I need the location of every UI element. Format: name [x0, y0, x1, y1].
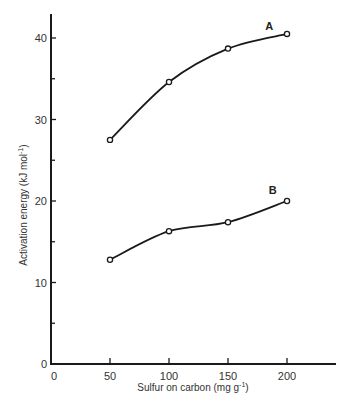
x-axis-ticks: 050100150200 [51, 358, 296, 382]
x-tick-label: 0 [51, 370, 57, 382]
series-curves [110, 34, 287, 260]
data-point-marker [225, 46, 230, 51]
data-point-marker [225, 220, 230, 225]
x-tick-label: 150 [219, 370, 237, 382]
x-axis-title: Sulfur on carbon (mg g-1) [137, 381, 248, 393]
y-tick-label: 0 [41, 358, 47, 370]
y-axis-title: Activation energy (kJ mol-1) [17, 144, 29, 265]
x-tick-label: 200 [278, 370, 296, 382]
data-point-marker [166, 79, 171, 84]
series-markers [107, 31, 289, 262]
x-tick-label: 50 [104, 370, 116, 382]
y-tick-label: 20 [35, 195, 47, 207]
series-a-curve [110, 34, 287, 140]
data-point-marker [107, 257, 112, 262]
data-point-marker [284, 31, 289, 36]
series-label-b: B [269, 184, 277, 196]
data-point-marker [107, 137, 112, 142]
series-b-curve [110, 201, 287, 260]
x-tick-label: 100 [160, 370, 178, 382]
y-tick-label: 10 [35, 277, 47, 289]
series-label-a: A [265, 20, 273, 32]
series-labels: AB [265, 20, 277, 197]
y-tick-label: 30 [35, 114, 47, 126]
chart: 010203040 050100150200 AB Sulfur on carb… [0, 0, 347, 405]
y-axis-ticks: 010203040 [35, 32, 56, 370]
data-point-marker [284, 198, 289, 203]
data-point-marker [166, 229, 171, 234]
y-tick-label: 40 [35, 32, 47, 44]
